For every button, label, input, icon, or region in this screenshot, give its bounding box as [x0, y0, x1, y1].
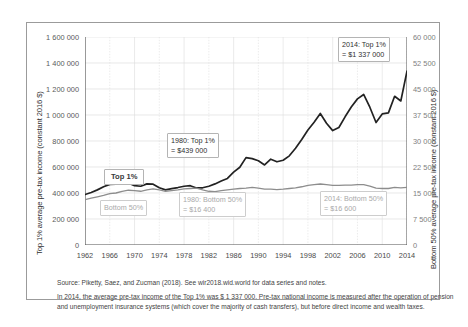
callout-top1-1980: 1980: Top 1% = $439 000	[167, 133, 219, 158]
left-axis-title: Top 1% average pre-tax income (constant …	[25, 23, 39, 263]
x-tick-label: 1990	[250, 251, 266, 260]
y2-tick-label: 52 500	[413, 59, 436, 68]
x-tick-label: 1966	[102, 251, 118, 260]
y2-tick-label: 22 500	[413, 163, 436, 172]
chart-footnote: Source: Piketty, Saez, and Zucman (2018)…	[57, 278, 461, 316]
series-label-top1: Top 1%	[104, 169, 144, 185]
y2-tick-label: 15 000	[413, 189, 436, 198]
y-tick-label: 400 000	[52, 189, 79, 198]
y-tick-label: 0	[75, 241, 79, 250]
y-tick-label: 600 000	[52, 163, 79, 172]
footnote-note: In 2014, the average pre-tax income of t…	[57, 292, 461, 313]
x-tick-label: 1970	[126, 251, 142, 260]
x-tick-label: 1986	[225, 251, 241, 260]
y-tick-label: 200 000	[52, 215, 79, 224]
chart-frame: Top 1% average pre-tax income (constant …	[26, 22, 440, 300]
y2-tick-label: 7 500	[413, 215, 432, 224]
y-tick-label: 1 600 000	[46, 33, 79, 42]
x-tick-label: 2014	[399, 251, 415, 260]
y2-tick-label: 60 000	[413, 33, 436, 42]
callout-top1-2014: 2014: Top 1% = $1 337 000	[338, 37, 390, 62]
y-tick-label: 1 200 000	[46, 85, 79, 94]
left-axis-title-text: Top 1% average pre-tax income (constant …	[35, 91, 44, 255]
y-tick-label: 1 400 000	[46, 59, 79, 68]
callout-bottom50-2014: 2014: Bottom 50% = $16 600	[320, 191, 387, 216]
x-tick-label: 1974	[151, 251, 167, 260]
y2-tick-label: 0	[413, 241, 417, 250]
series-label-bottom50: Bottom 50%	[100, 200, 147, 216]
y2-tick-label: 45 000	[413, 85, 436, 94]
x-tick-label: 2010	[374, 251, 390, 260]
y2-tick-label: 30 000	[413, 137, 436, 146]
x-tick-label: 2002	[324, 251, 340, 260]
x-tick-label: 1978	[176, 251, 192, 260]
footnote-source: Source: Piketty, Saez, and Zucman (2018)…	[57, 278, 461, 289]
y-tick-label: 1 000 000	[46, 111, 79, 120]
x-tick-label: 2006	[349, 251, 365, 260]
x-tick-label: 1994	[275, 251, 291, 260]
x-tick-label: 1998	[300, 251, 316, 260]
callout-bottom50-1980: 1980: Bottom 50% = $16 400	[179, 192, 246, 217]
y-tick-label: 800 000	[52, 137, 79, 146]
x-tick-label: 1982	[201, 251, 217, 260]
y2-tick-label: 37 500	[413, 111, 436, 120]
x-tick-label: 1962	[77, 251, 93, 260]
